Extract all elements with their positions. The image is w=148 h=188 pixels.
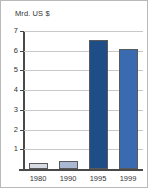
x-axis-line [19, 169, 143, 171]
x-axis-tick-label-1980: 1980 [30, 174, 47, 183]
y-axis-tick-label: 3 [14, 106, 18, 114]
y-axis-tickmark [20, 110, 24, 111]
x-axis-tick-label-1990: 1990 [60, 174, 77, 183]
bar-1995 [89, 40, 108, 169]
gridline [24, 31, 143, 32]
y-axis-tickmark [20, 51, 24, 52]
y-axis-tickmark [20, 70, 24, 71]
bar-1990 [59, 161, 78, 169]
y-axis-tick-label: 6 [14, 47, 18, 55]
bar-1980 [29, 163, 48, 169]
y-axis-tick-label: 7 [14, 27, 18, 35]
y-axis-tickmark [20, 31, 24, 32]
y-axis-tick-label: 1 [14, 146, 18, 154]
y-axis-tickmark [20, 90, 24, 91]
y-axis-tick-label: 2 [14, 126, 18, 134]
y-axis-tick-label: 5 [14, 67, 18, 75]
y-axis-tick-label: 4 [14, 86, 18, 94]
x-axis-tick-label-1995: 1995 [90, 174, 107, 183]
chart-axis-unit-title: Mrd. US $ [15, 9, 50, 18]
y-axis-tickmark [20, 130, 24, 131]
bar-chart-figure: Mrd. US $ 1234567 1980199019951999 [0, 0, 148, 188]
x-axis-tick-label-1999: 1999 [120, 174, 137, 183]
plot-area: 1234567 1980199019951999 [23, 31, 143, 169]
bar-1999 [119, 49, 138, 169]
y-axis-tickmark [20, 149, 24, 150]
